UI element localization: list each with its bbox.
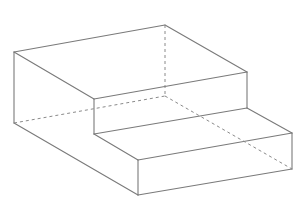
hidden-edge-line (14, 96, 165, 123)
edge-line (165, 25, 247, 72)
edge-line (94, 134, 138, 160)
edge-line (138, 169, 292, 195)
edge-line (14, 52, 94, 99)
edge-line (94, 72, 247, 99)
hidden-edge-line (165, 96, 292, 169)
edge-line (247, 108, 292, 133)
edge-line (14, 25, 165, 52)
stepped-solid-diagram (0, 0, 306, 197)
edge-line (14, 123, 138, 195)
edge-line (138, 133, 292, 160)
visible-edges (14, 25, 292, 195)
